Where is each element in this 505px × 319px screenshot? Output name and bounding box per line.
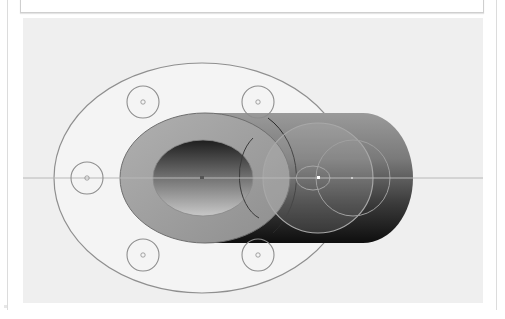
- center-marker-2: [317, 176, 320, 179]
- corner-mark: [4, 305, 7, 308]
- top-panel: [20, 0, 484, 13]
- center-marker: [200, 176, 204, 179]
- model-drawing: [23, 18, 483, 303]
- center-marker-3: [351, 177, 353, 179]
- 3d-viewport[interactable]: [23, 18, 483, 303]
